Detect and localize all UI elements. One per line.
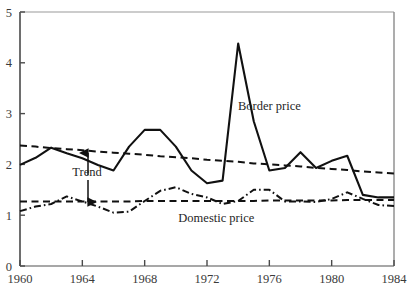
series-layer — [20, 44, 394, 213]
axis-lines — [20, 12, 394, 266]
y-tick-label: 2 — [6, 158, 12, 172]
annotation-label: Trend — [72, 165, 102, 179]
series-line — [20, 187, 394, 212]
x-tick-label: 1960 — [8, 272, 33, 286]
x-tick-label: 1976 — [257, 272, 282, 286]
y-tick-label: 3 — [6, 107, 12, 121]
x-tick-label: 1968 — [132, 272, 157, 286]
line-chart: 012345 1960196419681972197619801984 Bord… — [0, 0, 409, 295]
annotation-label: Border price — [238, 99, 301, 113]
y-axis-ticks: 012345 — [6, 6, 25, 274]
x-tick-label: 1984 — [382, 272, 408, 286]
y-tick-label: 5 — [6, 6, 12, 20]
x-tick-label: 1972 — [195, 272, 220, 286]
annotation-label: Domestic price — [178, 211, 254, 225]
y-tick-label: 1 — [6, 209, 12, 223]
chart-container: 012345 1960196419681972197619801984 Bord… — [0, 0, 409, 295]
x-tick-label: 1964 — [70, 272, 96, 286]
x-tick-label: 1980 — [319, 272, 344, 286]
x-axis-ticks: 1960196419681972197619801984 — [8, 260, 408, 286]
y-tick-label: 4 — [6, 56, 13, 70]
